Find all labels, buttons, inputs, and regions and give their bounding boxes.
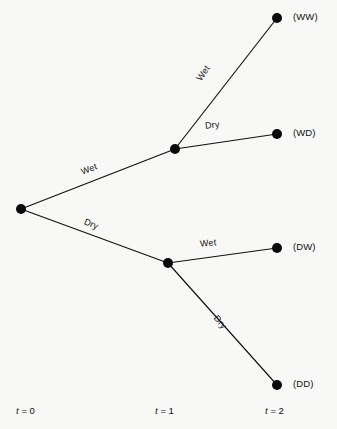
tree-edge-w-wd (175, 134, 277, 149)
edge-label-w-dry: Dry (204, 119, 220, 131)
tree-edge-root-d (21, 209, 168, 263)
time-label-t0-value: 0 (29, 405, 34, 416)
outcome-dw: (DW) (293, 241, 316, 252)
time-label-t0: t=0 (16, 405, 35, 416)
tree-edge-d-dw (168, 248, 277, 263)
tree-node-dd (272, 380, 282, 390)
tree-node-dw (272, 243, 282, 253)
time-label-t0-equals: = (19, 405, 30, 416)
tree-node-d (163, 258, 173, 268)
edges-group (21, 18, 277, 385)
time-label-t2-value: 2 (278, 405, 283, 416)
outcome-ww: (WW) (293, 11, 318, 22)
tree-edge-root-w (21, 149, 175, 209)
tree-node-w (170, 144, 180, 154)
tree-graphics (0, 0, 337, 429)
outcome-dd: (DD) (293, 378, 313, 389)
time-label-t2-equals: = (268, 405, 279, 416)
tree-edge-w-ww (175, 18, 277, 149)
binomial-tree-diagram: (WW)(WD)(DW)(DD) WetDryWetDryWetDry t=0t… (0, 0, 337, 429)
time-label-t1-value: 1 (168, 405, 173, 416)
time-label-t2: t=2 (265, 405, 284, 416)
tree-node-ww (272, 13, 282, 23)
tree-node-root (16, 204, 26, 214)
time-label-t1: t=1 (155, 405, 174, 416)
nodes-group (16, 13, 282, 390)
time-label-t1-equals: = (158, 405, 169, 416)
edge-label-d-wet: Wet (200, 237, 217, 249)
tree-node-wd (272, 129, 282, 139)
outcome-wd: (WD) (293, 127, 316, 138)
